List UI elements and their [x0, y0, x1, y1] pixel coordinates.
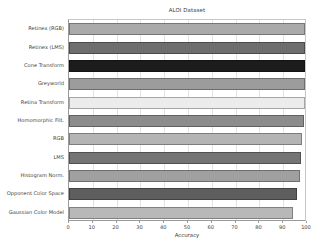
y-tick-label: Gaussian Color Model	[0, 209, 64, 215]
y-tick-label: LMS	[0, 154, 64, 160]
bar[interactable]	[69, 42, 305, 54]
bar[interactable]	[69, 152, 301, 164]
y-tick-label: RGB	[0, 135, 64, 141]
x-tick-label: 10	[89, 224, 95, 230]
x-tick-mark	[187, 221, 188, 223]
bar-row	[69, 152, 306, 164]
x-tick-mark	[306, 221, 307, 223]
x-tick-label: 40	[160, 224, 166, 230]
bar[interactable]	[69, 207, 293, 219]
bar-row	[69, 60, 306, 72]
x-tick-label: 80	[255, 224, 261, 230]
bar-row	[69, 97, 306, 109]
x-axis-label: Accuracy	[68, 232, 306, 239]
y-tick-label: Greyworld	[0, 80, 64, 86]
x-tick-mark	[116, 221, 117, 223]
y-tick-label: Opponent Color Space	[0, 190, 64, 196]
x-tick-mark	[163, 221, 164, 223]
y-tick-label: Histogram Norm.	[0, 172, 64, 178]
x-tick-label: 70	[231, 224, 237, 230]
bar[interactable]	[69, 97, 305, 109]
x-tick-label: 60	[208, 224, 214, 230]
bar[interactable]	[69, 170, 300, 182]
bar-row	[69, 115, 306, 127]
x-tick-mark	[258, 221, 259, 223]
bar[interactable]	[69, 23, 305, 35]
x-tick-mark	[282, 221, 283, 223]
bar-row	[69, 42, 306, 54]
bar-row	[69, 188, 306, 200]
bar-row	[69, 78, 306, 90]
x-tick-label: 90	[279, 224, 285, 230]
bar[interactable]	[69, 133, 302, 145]
x-tick-label: 0	[66, 224, 69, 230]
bar[interactable]	[69, 188, 297, 200]
y-tick-label: Retinex (RGB)	[0, 25, 64, 31]
y-tick-label: Cone Transform	[0, 62, 64, 68]
x-tick-label: 50	[184, 224, 190, 230]
y-tick-label: Retina Transform	[0, 99, 64, 105]
chart-figure: ALOI Dataset Retinex (RGB)Retinex (LMS)C…	[0, 0, 322, 250]
plot-area	[68, 19, 306, 221]
x-tick-mark	[235, 221, 236, 223]
x-tick-mark	[139, 221, 140, 223]
bar-row	[69, 170, 306, 182]
bar-row	[69, 133, 306, 145]
x-tick-label: 100	[301, 224, 311, 230]
x-tick-mark	[211, 221, 212, 223]
x-tick-label: 20	[112, 224, 118, 230]
bar[interactable]	[69, 78, 305, 90]
x-tick-mark	[68, 221, 69, 223]
bar-row	[69, 23, 306, 35]
y-axis-tick-labels: Retinex (RGB)Retinex (LMS)Cone Transform…	[0, 19, 64, 221]
chart-title: ALOI Dataset	[68, 7, 306, 14]
y-tick-label: Homomorphic Filt.	[0, 117, 64, 123]
y-tick-label: Retinex (LMS)	[0, 44, 64, 50]
x-tick-mark	[92, 221, 93, 223]
bar-row	[69, 207, 306, 219]
bar[interactable]	[69, 60, 305, 72]
bar[interactable]	[69, 115, 304, 127]
x-tick-label: 30	[136, 224, 142, 230]
